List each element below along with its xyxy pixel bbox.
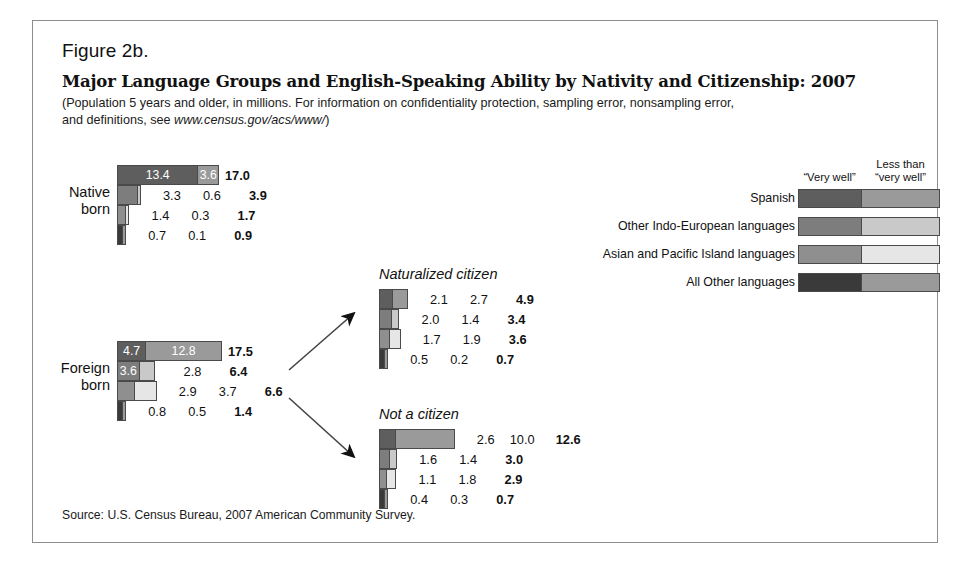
figure-number: Figure 2b. [62,40,149,62]
bar-value-very-well: 1.6 [403,452,437,467]
bar-segment-less-than [395,429,455,449]
block-title-naturalized-citizen: Naturalized citizen [379,266,497,282]
legend-swatch-very-well [798,189,861,208]
bar-value-very-well: 2.1 [414,292,448,307]
bar-value-very-well: 1.7 [407,332,441,347]
bar-value-very-well: 3.3 [147,188,181,203]
bar-value-total: 1.4 [206,404,252,419]
bar-segment-less-than [139,361,156,381]
bar-segment-less-than [122,225,126,245]
bar-segment-less-than [384,349,388,369]
bar-values: 17.5 [228,341,253,361]
bar-value-less-than: 0.2 [428,352,468,367]
bar-values: 1.40.31.7 [135,205,255,225]
bar-value-less-than: 1.4 [437,452,477,467]
bar-values: 2.610.012.6 [461,429,581,449]
bar-value-very-well: 3.6 [120,365,137,377]
legend-item-label: Asian and Pacific Island languages [603,247,795,261]
bar-value-less-than: 10.0 [495,432,535,447]
bar-values: 3.30.63.9 [147,185,267,205]
bar-segment-less-than [122,401,126,421]
bar-value-less-than: 0.5 [166,404,206,419]
bar-value-less-than: 3.7 [197,384,237,399]
bar-segment-less-than: 3.6 [197,165,219,185]
block-title-not-a-citizen: Not a citizen [379,406,459,422]
bar-value-less-than: 1.4 [439,312,479,327]
bar-values: 2.01.43.4 [405,309,525,329]
legend-header-less-than-line2: “very well” [875,171,926,183]
legend-swatch-less-than [861,217,940,236]
bar-value-less-than: 2.8 [161,364,201,379]
legend-item-other-indo-european-languages: Other Indo-European languages [640,217,940,236]
group-label-native-born: Nativeborn [40,184,110,218]
bar-segment-very-well [379,329,389,349]
bar-values: 0.80.51.4 [132,401,252,421]
legend-header-less-than-line1: Less than [876,158,925,170]
bar-segment-very-well [379,309,391,329]
legend-item-label: Spanish [750,191,795,205]
bar-values: 17.0 [225,165,250,185]
bar-segment-less-than [384,489,388,509]
bar-value-total: 2.9 [476,472,522,487]
bar-value-less-than: 3.6 [200,169,217,181]
bar-value-total: 0.9 [206,228,252,243]
bar-value-less-than: 2.7 [448,292,488,307]
bar-values: 1.71.93.6 [407,329,527,349]
figure-subtitle: (Population 5 years and older, in millio… [62,95,902,129]
legend-header-very-well: “Very well” [798,171,861,184]
figure-root: Figure 2b. Major Language Groups and Eng… [0,0,970,582]
bar-segment-very-well [117,185,137,205]
bar-segment-very-well [117,381,134,401]
bar-segment-less-than [391,309,399,329]
source-note: Source: U.S. Census Bureau, 2007 America… [62,508,415,522]
legend-swatch-very-well [798,273,861,292]
bar-value-total: 6.4 [201,364,247,379]
bar-segment-less-than [389,449,397,469]
group-label-line1: Native [69,184,110,200]
bar-value-very-well: 0.7 [132,228,166,243]
bar-segment-very-well [379,449,389,469]
bar-value-total: 6.6 [237,384,283,399]
bar-value-less-than: 12.8 [172,345,196,357]
subtitle-line-2-post: ) [325,113,329,127]
bar-value-total: 4.9 [488,292,534,307]
bar-value-total: 0.7 [468,492,514,507]
bar-value-less-than: 1.8 [436,472,476,487]
bar-value-less-than: 0.1 [166,228,206,243]
bar-value-very-well: 2.0 [405,312,439,327]
bar-values: 2.86.4 [161,361,247,381]
bar-values: 1.11.82.9 [402,469,522,489]
bar-value-total: 3.4 [479,312,525,327]
subtitle-url: www.census.gov/acs/www/ [174,113,325,127]
bar-value-total: 17.0 [225,168,250,183]
bar-segment-less-than [386,469,397,489]
legend-header-less-than: Less than “very well” [861,158,940,183]
bar-value-very-well: 0.4 [394,492,428,507]
bar-values: 0.50.20.7 [394,349,514,369]
group-label-foreign-born: Foreignborn [40,360,110,394]
bar-segment-less-than [389,329,400,349]
bar-value-very-well: 2.9 [163,384,197,399]
bar-value-total: 3.0 [477,452,523,467]
bar-value-very-well: 0.5 [394,352,428,367]
bar-value-total: 3.6 [481,332,527,347]
bar-value-very-well: 2.6 [461,432,495,447]
legend-item-spanish: Spanish [640,189,940,208]
legend-swatch-less-than [861,273,940,292]
legend-item-label: Other Indo-European languages [618,219,795,233]
group-label-line2: born [81,201,110,217]
bar-values: 2.12.74.9 [414,289,534,309]
bar-values: 2.93.76.6 [163,381,283,401]
bar-value-total: 3.9 [221,188,267,203]
legend-swatch-very-well [798,245,861,264]
bar-value-very-well: 13.4 [146,169,170,181]
bar-values: 0.70.10.9 [132,225,252,245]
bar-segment-very-well: 13.4 [117,165,197,185]
bar-segment-very-well [379,429,395,449]
bar-segment-less-than [125,205,129,225]
bar-segment-less-than: 12.8 [145,341,222,361]
group-label-line2: born [81,377,110,393]
bar-value-less-than: 1.9 [441,332,481,347]
bar-segment-very-well [117,205,125,225]
bar-value-total: 17.5 [228,344,253,359]
